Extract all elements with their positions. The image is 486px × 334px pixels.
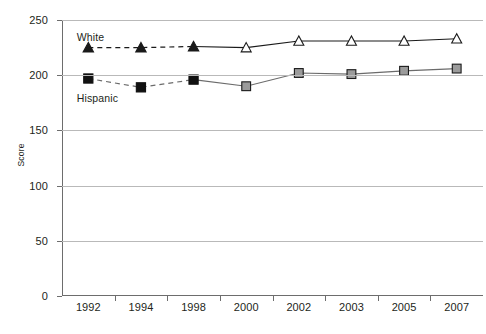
y-tick-mark — [57, 20, 62, 21]
x-tick-label-2007: 2007 — [430, 301, 483, 323]
series-label-hispanic: Hispanic — [77, 92, 118, 104]
gridline — [62, 75, 483, 76]
y-tick-label: 150 — [12, 124, 48, 136]
data-point-hispanic-2003[interactable] — [347, 70, 356, 79]
x-tick-label-1992: 1992 — [62, 301, 115, 323]
chart-container: Score 050100150200250 WhiteHispanic 1992… — [0, 0, 486, 334]
gridline — [62, 130, 483, 131]
data-point-hispanic-1998[interactable] — [189, 75, 198, 84]
x-axis-tick-labels: 19921994199820002002200320052007 — [62, 301, 483, 323]
x-tick-label-2003: 2003 — [325, 301, 378, 323]
y-tick-mark — [57, 241, 62, 242]
data-point-hispanic-1994[interactable] — [136, 83, 145, 92]
y-axis-tick-labels: 050100150200250 — [6, 0, 48, 334]
series-line-hispanic — [194, 69, 457, 87]
gridline — [62, 241, 483, 242]
series-layer — [62, 20, 483, 296]
x-tick-label-1994: 1994 — [115, 301, 168, 323]
y-tick-label: 200 — [12, 69, 48, 81]
data-point-hispanic-2007[interactable] — [452, 64, 461, 73]
x-tick-label-1998: 1998 — [167, 301, 220, 323]
data-point-hispanic-2005[interactable] — [400, 66, 409, 75]
y-tick-label: 50 — [12, 235, 48, 247]
data-point-hispanic-2000[interactable] — [242, 82, 251, 91]
y-tick-mark — [57, 186, 62, 187]
series-line-white — [194, 39, 457, 48]
x-tick-label-2005: 2005 — [378, 301, 431, 323]
y-tick-mark — [57, 296, 62, 297]
gridline — [62, 20, 483, 21]
x-tick-label-2000: 2000 — [220, 301, 273, 323]
y-tick-mark — [57, 130, 62, 131]
gridline — [62, 186, 483, 187]
plot-area: WhiteHispanic — [62, 20, 483, 296]
y-tick-label: 100 — [12, 180, 48, 192]
y-tick-label: 0 — [12, 290, 48, 302]
y-tick-label: 250 — [12, 14, 48, 26]
x-tick-label-2002: 2002 — [273, 301, 326, 323]
series-label-white: White — [77, 31, 105, 43]
y-tick-mark — [57, 75, 62, 76]
